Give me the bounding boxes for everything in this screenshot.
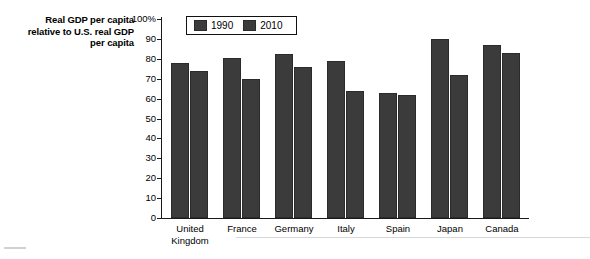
legend-label: 2010 xyxy=(260,21,282,31)
bottom-divider xyxy=(236,237,590,238)
bar-japan-1990 xyxy=(431,39,449,218)
y-tick-mark xyxy=(157,158,162,159)
bar-germany-2010 xyxy=(294,67,312,218)
x-label-line: Canada xyxy=(469,223,535,235)
y-tick-label: 10 xyxy=(145,193,156,203)
bar-group xyxy=(275,19,313,218)
y-tick-label: 20 xyxy=(145,173,156,183)
y-tick-mark xyxy=(157,59,162,60)
y-tick-mark xyxy=(157,198,162,199)
y-tick-mark xyxy=(157,138,162,139)
chart-legend: 19902010 xyxy=(186,16,297,35)
y-tick-mark xyxy=(157,178,162,179)
bar-germany-1990 xyxy=(275,54,293,218)
bar-group xyxy=(483,19,521,218)
bar-italy-2010 xyxy=(346,91,364,218)
chart-title-line-1: Real GDP per capita xyxy=(8,14,134,26)
bar-group xyxy=(327,19,365,218)
bar-canada-2010 xyxy=(502,53,520,218)
y-tick-label: 0 xyxy=(151,213,156,223)
bar-japan-2010 xyxy=(450,75,468,218)
bar-canada-1990 xyxy=(483,45,501,218)
bar-spain-1990 xyxy=(379,93,397,218)
legend-swatch-icon xyxy=(243,20,256,31)
bar-group xyxy=(223,19,261,218)
bar-italy-1990 xyxy=(327,61,345,218)
y-tick-mark xyxy=(157,79,162,80)
y-tick-mark xyxy=(157,39,162,40)
x-axis-line xyxy=(161,218,529,219)
y-tick-label: 50 xyxy=(145,114,156,124)
y-tick-label: 30 xyxy=(145,154,156,164)
chart-title-line-3: per capita xyxy=(8,37,134,49)
y-tick-label: 60 xyxy=(145,94,156,104)
x-label-line: Kingdom xyxy=(157,235,223,247)
bottom-left-mark xyxy=(4,247,26,249)
legend-label: 1990 xyxy=(211,21,233,31)
bar-group xyxy=(431,19,469,218)
y-tick-mark xyxy=(157,218,162,219)
y-tick-label: 100% xyxy=(132,14,156,24)
legend-swatch-icon xyxy=(194,20,207,31)
y-tick-mark xyxy=(157,19,162,20)
bar-united-kingdom-2010 xyxy=(190,71,208,218)
legend-item-1990: 1990 xyxy=(194,20,239,31)
legend-item-2010: 2010 xyxy=(243,20,288,31)
bar-group xyxy=(171,19,209,218)
chart-title: Real GDP per capita relative to U.S. rea… xyxy=(8,14,134,49)
y-tick-mark xyxy=(157,119,162,120)
bar-france-1990 xyxy=(223,58,241,218)
chart-figure: Real GDP per capita relative to U.S. rea… xyxy=(0,0,590,259)
bar-group xyxy=(379,19,417,218)
y-tick-label: 70 xyxy=(145,74,156,84)
bar-france-2010 xyxy=(242,79,260,218)
x-label-canada: Canada xyxy=(469,223,535,235)
bar-spain-2010 xyxy=(398,95,416,218)
plot-area: 100%9080706050403020100 xyxy=(162,19,528,218)
y-tick-label: 40 xyxy=(145,134,156,144)
y-tick-label: 90 xyxy=(145,34,156,44)
bar-united-kingdom-1990 xyxy=(171,63,189,218)
y-tick-mark xyxy=(157,99,162,100)
chart-title-line-2: relative to U.S. real GDP xyxy=(8,26,134,38)
y-tick-label: 80 xyxy=(145,54,156,64)
